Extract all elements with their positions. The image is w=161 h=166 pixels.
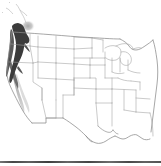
us-range-map-svg [0,0,161,166]
range-map-figure: Contiguous United States Dark shaded ban… [0,0,161,166]
bottom-rule-divider [0,161,161,163]
